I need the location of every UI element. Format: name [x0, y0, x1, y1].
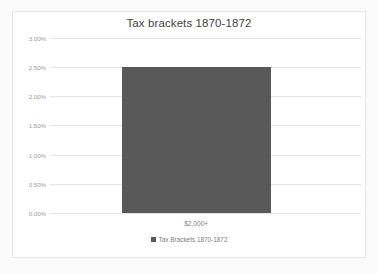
- gridline-0.00: [50, 213, 361, 214]
- y-axis-tick-label: 2.00%: [29, 93, 46, 100]
- bar-series: [50, 38, 361, 213]
- square-swatch-icon: [151, 237, 156, 242]
- y-axis-tick-label: 2.50%: [29, 64, 46, 71]
- y-axis-tick-label: 0.00%: [29, 210, 46, 217]
- bar-2000-plus[interactable]: [122, 67, 271, 213]
- legend-item-label: Tax Brackets 1870-1872: [159, 236, 228, 243]
- y-axis-tick-label: 0.50%: [29, 181, 46, 188]
- y-axis-tick-label: 1.00%: [29, 152, 46, 159]
- y-axis-tick-label: 3.00%: [29, 35, 46, 42]
- plot-area: 3.00% 2.50% 2.00% 1.50% 1.00% 0.50% 0.00…: [50, 38, 361, 213]
- chart-container: Tax brackets 1870-1872 3.00% 2.50% 2.00%…: [12, 11, 366, 258]
- x-axis-tick-label: $2,000+: [184, 220, 208, 227]
- chart-title: Tax brackets 1870-1872: [13, 17, 365, 29]
- y-axis-tick-label: 1.50%: [29, 122, 46, 129]
- chart-legend: Tax Brackets 1870-1872: [13, 236, 365, 243]
